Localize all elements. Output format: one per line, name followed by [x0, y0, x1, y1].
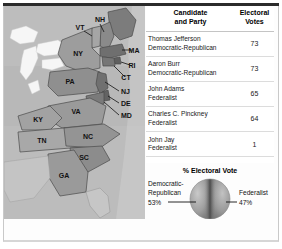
- map-label-ga: GA: [59, 172, 70, 179]
- table-head: Candidate and Party Electoral Votes: [146, 8, 274, 31]
- table-row: Thomas Jefferson Democratic-Republican 7…: [146, 31, 274, 56]
- votes-cell: 73: [235, 56, 274, 81]
- map-label-ri: RI: [129, 62, 136, 69]
- figure-root: NH VT MA RI CT NY PA NJ DE MD VA KY TN N…: [0, 0, 282, 249]
- candidate-cell: Thomas Jefferson Democratic-Republican: [146, 31, 235, 56]
- candidate-name: John Adams: [148, 85, 233, 94]
- map-label-ma: MA: [129, 47, 140, 54]
- table-body: Thomas Jefferson Democratic-Republican 7…: [146, 31, 274, 157]
- pie-right-label: Federalist: [239, 189, 268, 196]
- state-ri: [114, 57, 121, 64]
- candidate-name: John Jay: [148, 136, 233, 145]
- map-label-vt: VT: [76, 24, 86, 31]
- map-label-md: MD: [121, 112, 132, 119]
- table-row: John Jay Federalist 1: [146, 132, 274, 157]
- table-header-row: Candidate and Party Electoral Votes: [146, 8, 274, 31]
- votes-cell: 64: [235, 106, 274, 131]
- pie-left-label-line1: Democratic-: [148, 180, 184, 187]
- pie-chart-title: % Electoral Vote: [146, 167, 274, 174]
- map-label-ky: KY: [33, 116, 43, 123]
- pie-left-value: 53%: [148, 199, 161, 206]
- map-label-pa: PA: [65, 78, 74, 85]
- header-votes-line1: Electoral: [240, 9, 270, 16]
- map-label-nh: NH: [95, 16, 105, 23]
- map-label-va: VA: [71, 108, 80, 115]
- candidate-name: Thomas Jefferson: [148, 35, 233, 44]
- header-candidate: Candidate and Party: [146, 8, 235, 31]
- header-electoral-votes: Electoral Votes: [235, 8, 274, 31]
- candidate-cell: John Adams Federalist: [146, 81, 235, 106]
- map-label-ny: NY: [73, 50, 83, 57]
- votes-cell: 65: [235, 81, 274, 106]
- table-row: Charles C. Pinckney Federalist 64: [146, 106, 274, 131]
- map-label-nc: NC: [83, 133, 93, 140]
- candidate-cell: John Jay Federalist: [146, 132, 235, 157]
- electoral-map: NH VT MA RI CT NY PA NJ DE MD VA KY TN N…: [4, 6, 145, 219]
- pie-divider: [204, 179, 216, 219]
- results-table-panel: Candidate and Party Electoral Votes Thom…: [146, 8, 274, 163]
- pie-left-label-line2: Republican: [148, 189, 181, 197]
- candidate-party: Federalist: [148, 119, 233, 128]
- candidate-party: Federalist: [148, 94, 233, 103]
- candidate-name: Aaron Burr: [148, 60, 233, 69]
- candidate-party: Democratic-Republican: [148, 44, 233, 53]
- header-candidate-line2: and Party: [175, 18, 207, 25]
- state-ct: [102, 57, 115, 66]
- candidate-party: Democratic-Republican: [148, 69, 233, 78]
- map-label-de: DE: [121, 100, 131, 107]
- votes-cell: 73: [235, 31, 274, 56]
- header-candidate-line1: Candidate: [174, 9, 208, 16]
- header-votes-line2: Votes: [245, 18, 264, 25]
- map-graphic: NH VT MA RI CT NY PA NJ DE MD VA KY TN N…: [4, 6, 145, 219]
- table-row: Aaron Burr Democratic-Republican 73: [146, 56, 274, 81]
- candidate-party: Federalist: [148, 144, 233, 153]
- electoral-results-table: Candidate and Party Electoral Votes Thom…: [146, 8, 274, 157]
- map-label-sc: SC: [79, 154, 89, 161]
- pie-chart-wrap: Democratic- Republican 53% Federalist 47…: [146, 178, 274, 219]
- pie-right-value: 47%: [239, 199, 252, 206]
- candidate-cell: Aaron Burr Democratic-Republican: [146, 56, 235, 81]
- candidate-cell: Charles C. Pinckney Federalist: [146, 106, 235, 131]
- table-row: John Adams Federalist 65: [146, 81, 274, 106]
- map-label-tn: TN: [37, 137, 46, 144]
- candidate-name: Charles C. Pinckney: [148, 110, 233, 119]
- votes-cell: 1: [235, 132, 274, 157]
- pie-chart-graphic: Democratic- Republican 53% Federalist 47…: [146, 178, 274, 219]
- map-label-nj: NJ: [121, 88, 130, 95]
- pie-chart-section: % Electoral Vote: [146, 167, 274, 219]
